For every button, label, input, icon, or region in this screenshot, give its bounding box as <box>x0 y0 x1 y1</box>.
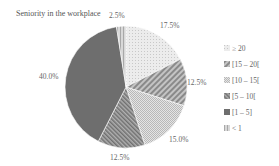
legend-item-ge20: ≥ 20 <box>224 40 260 56</box>
slice-label-lt1: 2.5% <box>109 11 125 20</box>
legend-swatch-icon <box>224 109 230 115</box>
pie-slices <box>65 26 187 148</box>
legend-item-10-15: [10 – 15[ <box>224 72 260 88</box>
legend-label: ≥ 20 <box>232 44 246 53</box>
legend-item-1-5: [1 – 5] <box>224 104 260 120</box>
slice-label-5-10: 12.5% <box>110 153 129 162</box>
legend-label: [1 – 5] <box>232 108 252 117</box>
slice-label-10-15: 15.0% <box>169 135 188 144</box>
legend-label: [10 – 15[ <box>232 76 260 85</box>
legend-swatch-icon <box>224 93 230 99</box>
legend-item-15-20: [15 – 20[ <box>224 56 260 72</box>
legend-swatch-icon <box>224 45 230 51</box>
chart-legend: ≥ 20 [15 – 20[ [10 – 15[ [5 – 10[ [1 – 5… <box>224 40 260 136</box>
legend-label: < 1 <box>232 124 242 133</box>
legend-swatch-icon <box>224 61 230 67</box>
slice-label-1-5: 40.0% <box>39 72 58 81</box>
slice-label-ge20: 17.5% <box>160 21 179 30</box>
slice-label-15-20: 12.5% <box>187 78 206 87</box>
legend-swatch-icon <box>224 125 230 131</box>
legend-label: [5 – 10[ <box>232 92 256 101</box>
legend-swatch-icon <box>224 77 230 83</box>
legend-label: [15 – 20[ <box>232 60 260 69</box>
legend-item-lt1: < 1 <box>224 120 260 136</box>
legend-item-5-10: [5 – 10[ <box>224 88 260 104</box>
